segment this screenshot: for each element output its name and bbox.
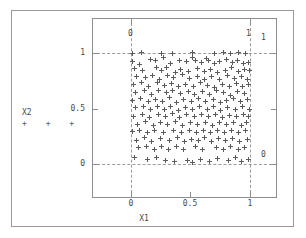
scatter-point [140,112,145,117]
scatter-point [134,138,139,143]
scatter-point [180,72,185,77]
scatter-point [186,69,191,74]
scatter-point [172,159,177,164]
scatter-point [166,147,171,152]
scatter-point [227,84,232,89]
scatter-point [168,104,173,109]
scatter-point [187,128,192,133]
corner-label-top-right-inside: 1 [246,29,251,38]
scatter-point [236,147,241,152]
scatter-point [183,105,188,110]
scatter-point [208,67,213,72]
scatter-point [211,97,216,102]
scatter-point [209,139,214,144]
scatter-point [184,59,189,64]
scatter-point [188,120,193,125]
y-tick-0 [92,164,98,165]
scatter-point [177,58,182,63]
y-tick-right-0 [271,164,277,165]
scatter-point [130,59,135,64]
scatter-point [218,108,223,113]
scatter-point [233,155,238,160]
scatter-point [215,70,220,75]
scatter-point [224,122,229,127]
scatter-point [171,128,176,133]
scatter-point [206,114,211,119]
scatter-point [209,74,214,79]
scatter-point [206,58,211,63]
scatter-point [174,100,179,105]
scatter-point [203,120,208,125]
corner-label-top-right-outside: 1 [261,33,266,42]
scatter-point [225,105,230,110]
scatter-point [186,89,191,94]
x-tick-1 [250,192,251,198]
scatter-point [158,136,163,141]
scatter-point [243,128,248,133]
scatter-point [235,89,240,94]
x-tick-label-0.5: 0.5 [175,199,205,208]
scatter-point [239,159,244,164]
scatter-point [154,155,159,160]
scatter-point [161,55,166,60]
scatter-point [195,122,200,127]
scatter-point [221,50,226,55]
scatter-point [228,144,233,149]
scatter-point [196,96,201,101]
scatter-point [130,98,135,103]
scatter-point [220,115,225,120]
scatter-point [229,65,234,70]
scatter-point [224,57,229,62]
scatter-point [156,112,161,117]
scatter-point [182,139,187,144]
scatter-point [173,70,178,75]
scatter-point [226,158,231,163]
scatter-point [240,104,245,109]
scatter-point [197,104,202,109]
scatter-point [215,128,220,133]
scatter-point [247,107,252,112]
scatter-point [142,135,147,140]
scatter-point [176,84,181,89]
scatter-point [136,145,141,150]
scatter-point [146,84,151,89]
scatter-point [236,130,241,135]
scatter-point [134,74,139,79]
scatter-point [231,96,236,101]
scatter-point [247,68,252,73]
scatter-point [161,130,166,135]
scatter-point [149,139,154,144]
corner-label-bottom-right-outside: 0 [261,150,266,159]
scatter-point [183,82,188,87]
scatter-point [211,104,216,109]
scatter-point [212,61,217,66]
scatter-point [169,81,174,86]
scatter-points-layer [131,53,250,164]
scatter-point [218,100,223,105]
scatter-point [189,137,194,142]
scatter-point [163,114,168,119]
scatter-point [159,144,164,149]
scatter-point [145,157,150,162]
scatter-point [156,88,161,93]
scatter-point [246,82,251,87]
scatter-point [152,128,157,133]
scatter-point [132,66,137,71]
scatter-point [245,137,250,142]
scatter-point [173,119,178,124]
scatter-point [140,68,145,73]
scatter-point [143,119,148,124]
scatter-point [194,130,199,135]
x-axis-title-wrap: X1 [0,214,306,223]
scatter-point [130,129,135,134]
scatter-point [178,91,183,96]
x-axis-title: X1 [139,214,149,223]
scatter-point [181,147,186,152]
scatter-point [189,99,194,104]
y-axis-legend-group: X2 + + + [22,108,81,128]
scatter-point [154,65,159,70]
scatter-point [240,84,245,89]
x-tick-top-1 [250,18,251,24]
scatter-point [195,74,200,79]
scatter-point [246,60,251,65]
